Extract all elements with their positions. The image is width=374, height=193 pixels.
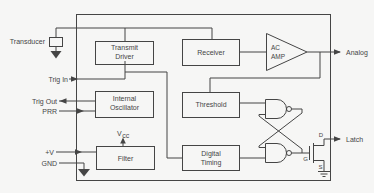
gate-label: G [303,156,308,162]
transmit-driver-label-2: Driver [115,53,134,60]
vcc-sub: cc [122,132,130,139]
gnd-net: GND [41,160,90,177]
filter-block: Filter [97,147,155,170]
ground-icon [78,169,90,177]
threshold-label: Threshold [195,101,226,108]
ac-amp-label-1: AC [271,44,280,51]
ac-amp-label-2: AMP [271,53,285,60]
ac-amp-block: AC AMP [267,34,308,71]
gnd-wire [59,163,84,169]
analog-net: Analog [307,49,368,57]
arrow-right-icon [334,49,341,55]
pin-label-trig-in: Trig In [48,76,68,84]
nand-bubble [287,107,292,112]
nand-body [266,144,287,163]
pin-label-prr: PRR [42,108,57,115]
diagram-canvas: Transducer Trig In Trig Out PRR +V GND V… [0,0,374,193]
vcc-net: Vcc [117,130,130,147]
digital-timing-label-1: Digital [201,150,221,158]
pin-label-transducer: Transducer [10,38,46,45]
internal-oscillator-block: Internal Oscillator [96,92,154,118]
nand-body [266,100,287,119]
transmit-driver-label-1: Transmit [111,44,138,51]
threshold-block: Threshold [183,93,240,118]
pin-label-v-plus: +V [45,149,54,156]
internal-oscillator-label-1: Internal [113,95,137,102]
ground-hatch-icon [318,172,330,177]
pin-label-analog: Analog [346,49,368,57]
block-diagram: Transducer Trig In Trig Out PRR +V GND V… [0,0,374,193]
digital-timing-block: Digital Timing [183,146,240,171]
receiver-block: Receiver [183,40,240,66]
latch-net: Latch [324,136,363,143]
arrow-left-icon [60,98,67,104]
v-plus-net: +V [45,149,96,156]
prr-net: PRR [42,108,95,115]
arrow-right-icon [77,108,84,114]
threshold-feed-wire [210,52,320,93]
mosfet-drain-wire [314,139,325,146]
source-label: S [318,164,322,170]
nand-gate-top [266,100,303,119]
filter-label: Filter [118,155,134,162]
digital-timing-label-2: Timing [201,159,222,167]
arrow-right-icon [334,136,341,142]
nand-bubble [287,151,292,156]
vcc-label: Vcc [117,130,130,139]
pin-label-trig-out: Trig Out [32,98,57,106]
arrow-right-icon [75,149,82,155]
ground-icon [51,51,62,59]
pin-label-gnd: GND [41,160,57,167]
transducer-icon [50,38,63,47]
internal-oscillator-label-2: Oscillator [110,104,140,111]
receiver-label: Receiver [197,49,225,56]
pin-label-latch: Latch [346,136,363,143]
trig-out-net: Trig Out [32,98,96,106]
drain-label: D [319,132,324,138]
